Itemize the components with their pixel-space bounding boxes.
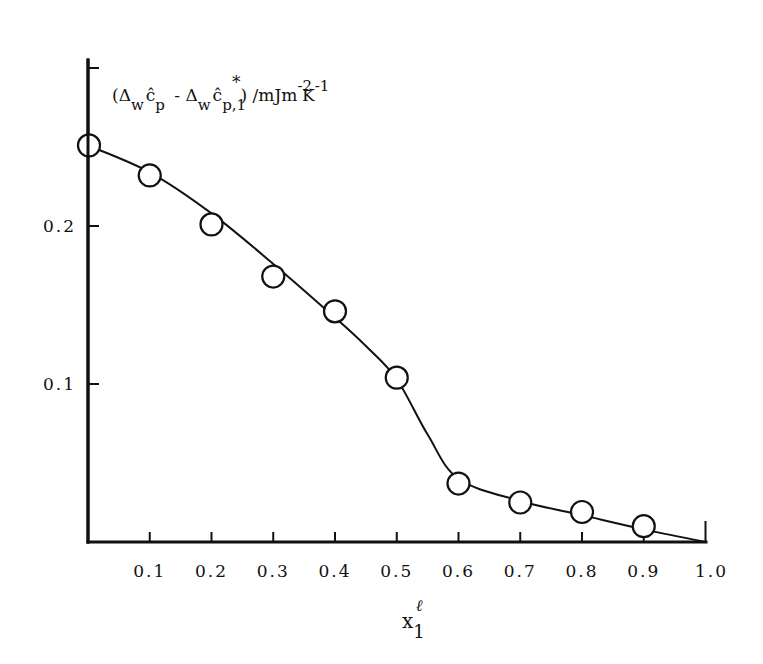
x-axis-title: x1ℓ	[402, 596, 425, 642]
data-point-marker	[139, 164, 161, 186]
data-markers	[78, 60, 655, 542]
data-point-marker	[633, 515, 655, 537]
x-tick-label: 0.4	[318, 561, 351, 581]
x-tick-label: 1.0	[695, 561, 728, 581]
data-point-marker	[448, 473, 470, 495]
data-point-marker	[262, 266, 284, 288]
x-tick-label: 0.9	[627, 561, 660, 581]
axes	[88, 60, 706, 542]
fitted-curve	[88, 145, 706, 542]
data-point-marker	[324, 300, 346, 322]
y-tick-label: 0.2	[43, 216, 76, 236]
y-tick-label: 0.1	[43, 374, 76, 394]
x-tick-label: 0.3	[257, 561, 290, 581]
x-tick-label: 0.1	[133, 561, 166, 581]
y-ticks: 0.10.2	[43, 68, 99, 394]
x-tick-label: 0.5	[380, 561, 413, 581]
data-point-marker	[386, 367, 408, 389]
data-point-marker	[571, 501, 593, 523]
y-axis-title: (Δwĉp - Δwĉp,1*) /mJm-2K-1	[112, 72, 329, 114]
x-tick-label: 0.8	[565, 561, 598, 581]
data-point-marker	[509, 492, 531, 514]
x-tick-label: 0.7	[504, 561, 537, 581]
chart-canvas: 0.10.20.30.40.50.60.70.80.91.0 0.10.2 (Δ…	[0, 0, 763, 664]
data-point-marker	[201, 213, 223, 235]
x-tick-label: 0.6	[442, 561, 475, 581]
x-tick-label: 0.2	[195, 561, 228, 581]
